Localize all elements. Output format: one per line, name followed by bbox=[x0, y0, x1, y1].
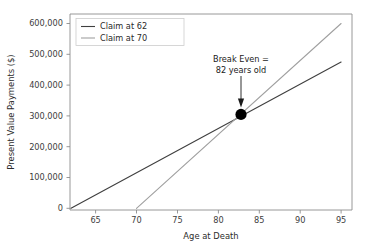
y-tick-label-500000: 500,000 bbox=[29, 49, 63, 59]
chart-legend[interactable]: Claim at 62 Claim at 70 bbox=[76, 19, 184, 46]
x-tick-label-70: 70 bbox=[131, 215, 141, 225]
y-tick-label-300000: 300,000 bbox=[29, 111, 63, 121]
y-tick-label-100000: 100,000 bbox=[29, 172, 63, 182]
y-tick-label-600000: 600,000 bbox=[29, 18, 63, 28]
y-tick-label-200000: 200,000 bbox=[29, 142, 63, 152]
chart-canvas: 0 100,000 200,000 300,000 400,000 500,00… bbox=[0, 0, 370, 252]
x-tick-label-75: 75 bbox=[172, 215, 182, 225]
y-tick-label-0: 0 bbox=[58, 203, 63, 213]
legend-label-claim-at-70[interactable]: Claim at 70 bbox=[100, 33, 147, 43]
chart-figure: 0 100,000 200,000 300,000 400,000 500,00… bbox=[0, 0, 370, 252]
x-tick-label-90: 90 bbox=[295, 215, 305, 225]
break-even-marker bbox=[235, 109, 246, 120]
y-axis-title: Present Value Payments ($) bbox=[6, 54, 16, 169]
y-tick-label-400000: 400,000 bbox=[29, 80, 63, 90]
x-axis-title: Age at Death bbox=[183, 231, 238, 241]
break-even-label-line1: Break Even = bbox=[213, 54, 269, 64]
break-even-label-line2: 82 years old bbox=[216, 65, 267, 75]
legend-label-claim-at-62[interactable]: Claim at 62 bbox=[100, 21, 147, 31]
x-tick-label-85: 85 bbox=[254, 215, 264, 225]
x-tick-label-95: 95 bbox=[336, 215, 346, 225]
x-tick-label-80: 80 bbox=[213, 215, 223, 225]
x-tick-label-65: 65 bbox=[90, 215, 100, 225]
